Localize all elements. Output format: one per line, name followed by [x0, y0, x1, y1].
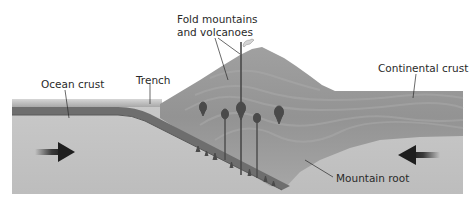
label-fold-mountains-1: Fold mountains	[177, 13, 258, 25]
plate-boundary-diagram: Ocean crust Trench Fold mountains and vo…	[0, 0, 473, 206]
label-mountain-root: Mountain root	[336, 172, 409, 184]
label-continental-crust: Continental crust	[378, 62, 468, 74]
ocean-surface	[12, 99, 162, 107]
label-fold-mountains-2: and volcanoes	[177, 26, 253, 38]
label-trench: Trench	[135, 74, 171, 86]
label-ocean-crust: Ocean crust	[41, 78, 104, 90]
volcano-plume-icon	[243, 39, 254, 47]
